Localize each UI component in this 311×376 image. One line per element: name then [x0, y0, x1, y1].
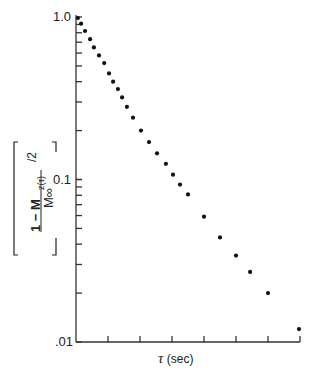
data-point: [202, 215, 206, 219]
data-point: [92, 45, 96, 49]
data-point: [297, 327, 301, 331]
y-axis-label: 1 − M z(τ) M∞ /2: [14, 142, 56, 255]
data-point: [218, 235, 222, 239]
chart-plot: 1 − M z(τ) M∞ /2: [0, 0, 311, 376]
data-point: [171, 173, 175, 177]
data-point: [131, 116, 135, 120]
data-point: [178, 183, 182, 187]
data-point: [102, 61, 106, 65]
data-point: [186, 192, 190, 196]
data-point: [83, 29, 87, 33]
data-point: [125, 105, 129, 109]
data-point: [88, 37, 92, 41]
data-point: [147, 140, 151, 144]
y-tick-label-0.01: .01: [55, 334, 73, 349]
data-point: [120, 95, 124, 99]
data-point: [76, 16, 80, 20]
y-tick-label-0.1: 0.1: [53, 172, 71, 187]
y-label-div: /2: [25, 152, 39, 162]
data-point: [116, 87, 120, 91]
x-unit: (sec): [167, 352, 194, 366]
data-point: [79, 22, 83, 26]
data-point: [107, 71, 111, 75]
data-point: [111, 80, 115, 84]
x-axis-label: τ (sec): [158, 350, 193, 367]
y-tick-label-1: 1.0: [53, 9, 71, 24]
data-point: [164, 162, 168, 166]
data-point: [97, 53, 101, 57]
data-point: [234, 254, 238, 258]
data-point: [266, 291, 270, 295]
data-point: [248, 270, 252, 274]
tau-symbol: τ: [158, 350, 163, 366]
data-point: [155, 151, 159, 155]
data-point: [139, 129, 143, 133]
y-label-denominator: M∞: [41, 188, 56, 208]
